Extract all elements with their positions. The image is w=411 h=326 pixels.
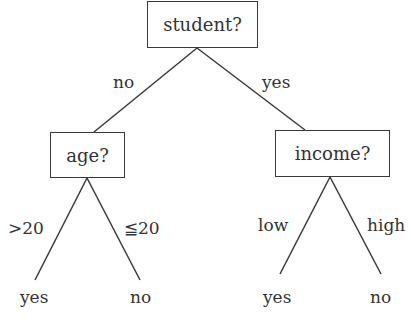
root-node-label: student?: [163, 14, 242, 35]
edge-label-high: high: [367, 217, 405, 234]
leaf-age-le20-no: no: [130, 289, 151, 306]
node-age: age?: [50, 132, 125, 178]
leaf-age-gt20-yes: yes: [20, 289, 48, 306]
leaf-income-high-no: no: [370, 289, 391, 306]
root-node-student: student?: [147, 1, 258, 48]
node-income: income?: [275, 130, 390, 177]
edge-label-yes: yes: [262, 74, 290, 91]
edge-root-no: [94, 48, 197, 132]
node-age-label: age?: [66, 145, 109, 166]
edge-label-low: low: [258, 217, 288, 234]
leaf-income-low-yes: yes: [263, 289, 291, 306]
edge-label-le20: ≦20: [124, 220, 160, 237]
edge-label-gt20: >20: [8, 220, 44, 237]
node-income-label: income?: [295, 143, 371, 164]
edge-label-no: no: [113, 74, 134, 91]
